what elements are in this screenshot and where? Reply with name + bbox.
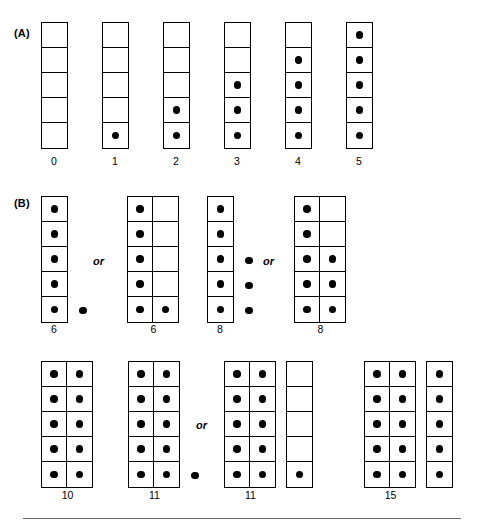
grid-row xyxy=(208,247,233,272)
empty-cell xyxy=(164,48,189,73)
grid-row xyxy=(128,297,178,322)
filled-cell-dot xyxy=(295,222,320,247)
empty-cell xyxy=(42,23,67,48)
grid-row xyxy=(164,98,189,123)
filled-cell-dot xyxy=(427,412,452,437)
empty-cell xyxy=(225,48,250,73)
loose-dot-column xyxy=(74,198,92,323)
filled-cell-dot xyxy=(365,437,390,462)
filled-cell-dot xyxy=(129,412,154,437)
empty-cell xyxy=(225,23,250,48)
group-row xyxy=(285,22,312,149)
filled-cell-dot xyxy=(154,362,179,387)
group-count-label: 6 xyxy=(127,324,180,335)
dot-grid xyxy=(346,22,373,149)
loose-dot xyxy=(74,298,92,323)
group-count-label: 0 xyxy=(41,156,67,167)
grid-row xyxy=(427,387,452,412)
dot-group-a-1 xyxy=(102,22,129,149)
loose-dot xyxy=(240,273,258,298)
empty-cell xyxy=(320,222,345,247)
group-row xyxy=(163,22,190,149)
dot-group-b-6a xyxy=(41,196,92,323)
filled-cell-dot xyxy=(128,222,153,247)
filled-cell-dot xyxy=(347,123,372,148)
empty-cell xyxy=(287,387,312,412)
grid-row xyxy=(286,98,311,123)
dot-grid xyxy=(285,22,312,149)
grid-row xyxy=(103,73,128,98)
filled-cell-dot xyxy=(225,123,250,148)
empty-cell xyxy=(42,73,67,98)
dot-grid xyxy=(224,361,276,488)
filled-cell-dot xyxy=(67,362,92,387)
grid-row xyxy=(164,73,189,98)
dot-group-b-15 xyxy=(364,361,453,488)
dot-grid xyxy=(127,196,179,323)
or-connector: or xyxy=(263,256,274,267)
loose-dot-spacer xyxy=(186,438,204,463)
group-count-label: 11 xyxy=(224,490,277,501)
filled-cell-dot xyxy=(128,247,153,272)
grid-row xyxy=(295,222,345,247)
grid-row xyxy=(42,387,92,412)
filled-cell-dot xyxy=(286,123,311,148)
filled-cell-dot xyxy=(129,362,154,387)
dot-grid xyxy=(224,22,251,149)
loose-dot-column xyxy=(240,198,258,323)
group-count-label: 2 xyxy=(163,156,189,167)
grid-row xyxy=(287,387,312,412)
filled-cell-dot xyxy=(128,272,153,297)
grid-row xyxy=(365,362,415,387)
grid-row xyxy=(42,412,92,437)
filled-cell-dot xyxy=(208,297,233,322)
group-row xyxy=(127,196,179,323)
grid-row xyxy=(208,197,233,222)
grid-row xyxy=(347,48,372,73)
filled-cell-dot xyxy=(67,387,92,412)
filled-cell-dot xyxy=(42,437,67,462)
grid-row xyxy=(286,48,311,73)
group-count-label: 8 xyxy=(207,324,233,335)
filled-cell-dot xyxy=(129,437,154,462)
filled-cell-dot xyxy=(42,272,67,297)
filled-cell-dot xyxy=(154,437,179,462)
group-count-label: 11 xyxy=(128,490,181,501)
group-row xyxy=(102,22,129,149)
group-row xyxy=(128,361,204,488)
group-row xyxy=(41,196,92,323)
filled-cell-dot xyxy=(154,387,179,412)
filled-cell-dot xyxy=(365,362,390,387)
grid-row xyxy=(365,412,415,437)
dot-group-a-0 xyxy=(41,22,68,149)
filled-cell-dot xyxy=(295,272,320,297)
grid-row xyxy=(42,297,67,322)
grid-row xyxy=(365,387,415,412)
filled-cell-dot xyxy=(295,297,320,322)
filled-cell-dot xyxy=(208,272,233,297)
filled-cell-dot xyxy=(208,247,233,272)
grid-row xyxy=(286,73,311,98)
filled-cell-dot xyxy=(103,123,128,148)
grid-row xyxy=(295,272,345,297)
empty-cell xyxy=(287,362,312,387)
dot-group-b-11a xyxy=(128,361,204,488)
dot-group-a-3 xyxy=(224,22,251,149)
grid-row xyxy=(129,387,179,412)
empty-cell xyxy=(153,247,178,272)
grid-row xyxy=(208,297,233,322)
filled-cell-dot xyxy=(42,412,67,437)
loose-dot xyxy=(186,463,204,488)
grid-row xyxy=(427,412,452,437)
group-row xyxy=(346,22,373,149)
grid-row xyxy=(427,362,452,387)
filled-cell-dot xyxy=(67,412,92,437)
empty-cell xyxy=(103,23,128,48)
filled-cell-dot xyxy=(295,247,320,272)
grid-row xyxy=(164,123,189,148)
grid-row xyxy=(365,437,415,462)
group-row xyxy=(224,361,313,488)
dot-grid xyxy=(41,196,68,323)
grid-row xyxy=(103,48,128,73)
filled-cell-dot xyxy=(42,197,67,222)
